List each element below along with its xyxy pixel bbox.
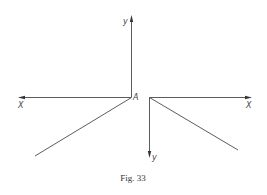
right-x-arrow-icon — [245, 96, 252, 99]
right-oblique-axis — [150, 98, 239, 151]
right-axes — [148, 96, 252, 158]
left-y-label: y — [122, 17, 128, 26]
figure-canvas: y A X X y Fig. 33 — [0, 0, 267, 195]
point-a-label: A — [132, 93, 138, 102]
left-oblique-axis — [35, 98, 132, 157]
left-x-label: X — [17, 101, 24, 110]
axes-diagram: y A X X y Fig. 33 — [0, 0, 267, 195]
figure-caption: Fig. 33 — [120, 173, 146, 183]
left-axes — [18, 15, 133, 156]
left-x-arrow-icon — [18, 96, 25, 99]
right-x-label: X — [245, 101, 252, 110]
right-y-arrow-icon — [148, 151, 151, 158]
left-y-arrow-icon — [130, 15, 133, 22]
right-y-label: y — [151, 153, 157, 162]
